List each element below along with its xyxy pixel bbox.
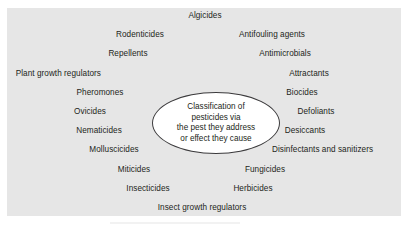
bottom-scan-artifact: [110, 222, 240, 224]
node-label: Plant growth regulators: [16, 70, 101, 78]
node-label: Antifouling agents: [239, 31, 305, 39]
center-ellipse-text: Classification ofpesticides viathe pest …: [156, 102, 276, 144]
node-label: Pheromones: [77, 89, 124, 97]
node-label: Antimicrobials: [259, 50, 311, 58]
node-label: Miticides: [118, 166, 150, 174]
node-label: Rodenticides: [116, 31, 164, 39]
center-ellipse-line: Classification of: [156, 102, 276, 113]
node-label: Fungicides: [245, 166, 285, 174]
node-label: Insect growth regulators: [158, 204, 247, 212]
node-label: Ovicides: [74, 108, 106, 116]
node-label: Nematicides: [76, 127, 122, 135]
node-label: Biocides: [286, 89, 317, 97]
node-label: Disinfectants and sanitizers: [272, 146, 373, 154]
node-label: Repellents: [108, 50, 147, 58]
node-label: Desiccants: [285, 127, 326, 135]
diagram-panel: AlgicidesRodenticidesAntifouling agentsR…: [7, 8, 401, 216]
center-ellipse-line: pesticides via: [156, 112, 276, 123]
node-label: Attractants: [289, 70, 329, 78]
node-label: Molluscicides: [89, 146, 138, 154]
node-label: Algicides: [188, 12, 221, 20]
node-label: Insecticides: [126, 185, 169, 193]
node-label: Herbicides: [233, 185, 272, 193]
center-ellipse-line: or effect they cause: [156, 134, 276, 145]
figure-root: AlgicidesRodenticidesAntifouling agentsR…: [0, 0, 413, 231]
node-label: Defoliants: [298, 108, 335, 116]
center-ellipse-line: the pest they address: [156, 123, 276, 134]
center-ellipse: Classification ofpesticides viathe pest …: [152, 92, 280, 154]
